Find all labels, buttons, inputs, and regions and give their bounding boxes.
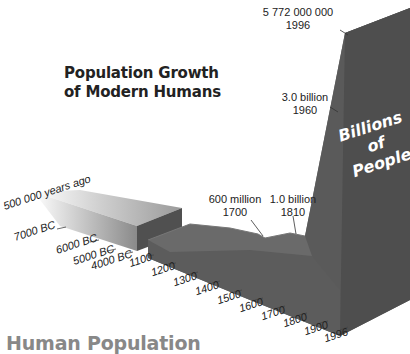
annotation-1810: 1.0 billion 1810 (263, 193, 323, 219)
annotation-value: 3.0 billion (275, 91, 335, 104)
annotation-value: 5 772 000 000 (255, 6, 341, 19)
annotation-value: 600 million (200, 193, 270, 206)
annotation-year: 1960 (275, 104, 335, 117)
annotation-year: 1700 (200, 206, 270, 219)
annotation-1700: 600 million 1700 (200, 193, 270, 219)
annotation-1996: 5 772 000 000 1996 (255, 6, 341, 32)
annotation-value: 1.0 billion (263, 193, 323, 206)
annotation-year: 1996 (255, 19, 341, 32)
chart-title-line2: of Modern Humans (64, 83, 221, 102)
chart-title: Population Growth of Modern Humans (64, 64, 221, 102)
chart-title-line1: Population Growth (64, 64, 221, 83)
chart-subtitle: Human Population (6, 332, 201, 354)
annotation-1960: 3.0 billion 1960 (275, 91, 335, 117)
annotation-year: 1810 (263, 206, 323, 219)
